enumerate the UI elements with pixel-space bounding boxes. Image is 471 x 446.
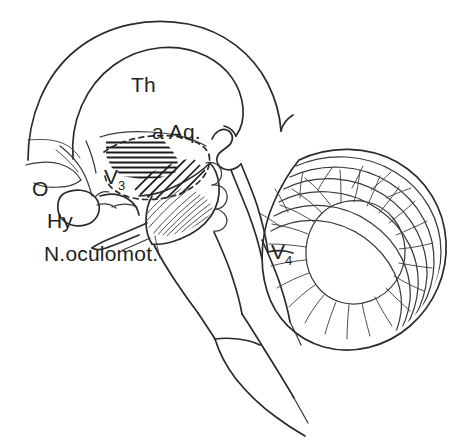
label-oculomotor-nerve: N.oculomot.: [44, 242, 158, 265]
pons-body: [154, 232, 242, 314]
label-thalamus: Th: [131, 73, 156, 96]
brain-diagram-svg: Th a Aq. V 3 V 4 O Hy N.oculomot.: [0, 0, 471, 446]
label-optic-chiasm: O: [32, 177, 49, 200]
label-third-ventricle: V 3: [104, 165, 125, 193]
label-third-ventricle-main: V: [104, 165, 118, 188]
cerebral-aqueduct: [212, 129, 268, 259]
label-fourth-ventricle-main: V: [271, 240, 285, 263]
label-group: Th a Aq. V 3 V 4 O Hy N.oculomot.: [32, 73, 292, 268]
brain-diagram-figure: Th a Aq. V 3 V 4 O Hy N.oculomot.: [0, 0, 471, 446]
label-fourth-ventricle-subscript: 4: [285, 253, 292, 268]
medulla-oblongata: [198, 313, 308, 436]
label-hypophysis: Hy: [47, 209, 73, 232]
midbrain-peduncle: [139, 162, 227, 247]
label-aqueduct: a Aq.: [152, 120, 201, 143]
label-third-ventricle-subscript: 3: [118, 178, 125, 193]
